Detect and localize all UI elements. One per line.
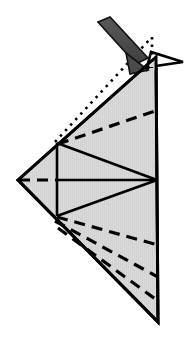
origami-diagram	[0, 0, 192, 338]
origami-figure-svg	[0, 0, 192, 338]
